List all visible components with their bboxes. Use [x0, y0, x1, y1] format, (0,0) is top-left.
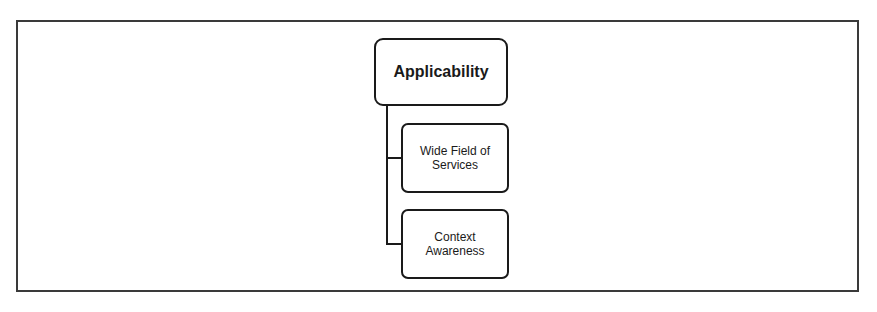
child-node-context-awareness: Context Awareness: [401, 209, 509, 279]
connector-vertical-line: [386, 106, 388, 245]
root-node-applicability: Applicability: [374, 38, 508, 106]
connector-branch-1: [386, 157, 401, 159]
root-node-label: Applicability: [393, 63, 488, 81]
child-node-wide-field-of-services: Wide Field of Services: [401, 123, 509, 193]
child-node-label: Wide Field of Services: [409, 144, 501, 172]
connector-branch-2: [386, 243, 401, 245]
child-node-label: Context Awareness: [409, 230, 501, 258]
